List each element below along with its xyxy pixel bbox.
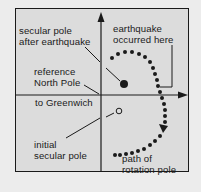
label-to-greenwich: to Greenwich bbox=[35, 98, 93, 109]
path-arrowhead-icon bbox=[159, 124, 168, 133]
pointer-earthquake bbox=[160, 45, 172, 87]
label-initial-secular-pole: initial secular pole bbox=[34, 140, 87, 161]
pointer-secular-after bbox=[85, 47, 100, 62]
label-secular-pole-after: secular pole after earthquake bbox=[19, 26, 90, 47]
vertical-axis bbox=[98, 12, 105, 172]
pointer-initial-secular-2 bbox=[106, 113, 114, 117]
label-path-rotation-pole: path of rotation pole bbox=[122, 154, 176, 175]
label-earthquake-occurred: earthquake occurred here bbox=[113, 24, 174, 45]
label-reference-north-pole: reference North Pole bbox=[34, 67, 80, 88]
initial-secular-pole-marker bbox=[116, 108, 122, 114]
secular-pole-after-marker bbox=[120, 80, 128, 88]
axis-arrow-up-icon bbox=[98, 12, 105, 22]
rotation-path-dots bbox=[110, 50, 167, 157]
pointer-reference-pole bbox=[84, 85, 99, 94]
pointer-secular-after-2 bbox=[106, 68, 120, 81]
axis-arrow-right-icon bbox=[178, 92, 188, 99]
pointer-initial-secular bbox=[66, 118, 100, 138]
